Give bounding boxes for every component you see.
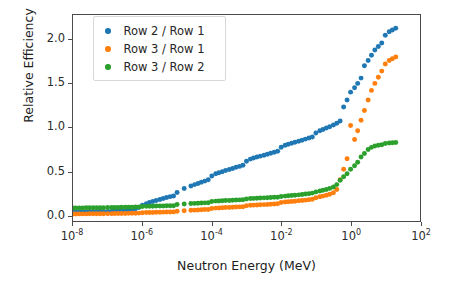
data-point — [175, 202, 180, 207]
data-point — [393, 140, 398, 145]
x-tick-label: 10-6 — [116, 228, 168, 243]
data-point — [275, 149, 280, 154]
x-tick-mark — [281, 222, 282, 226]
data-point — [348, 90, 353, 95]
x-tick-label: 102 — [395, 228, 447, 243]
data-point — [383, 33, 388, 38]
data-point — [348, 167, 353, 172]
data-point — [175, 190, 180, 195]
data-point — [341, 105, 346, 110]
y-tick-mark — [68, 127, 72, 128]
data-point — [352, 85, 357, 90]
data-point — [362, 63, 367, 68]
y-tick-label: 0.0 — [25, 208, 65, 222]
data-point — [369, 88, 374, 93]
y-tick-mark — [68, 83, 72, 84]
data-point — [393, 26, 398, 31]
data-point — [175, 209, 180, 214]
data-point — [362, 108, 367, 113]
x-tick-mark — [351, 222, 352, 226]
y-axis-label: Relative Efficiency — [21, 0, 36, 141]
legend-label: Row 2 / Row 1 — [124, 24, 205, 38]
data-point — [182, 186, 187, 191]
x-tick-mark — [72, 222, 73, 226]
y-tick-label: 0.5 — [25, 164, 65, 178]
x-tick-label: 100 — [325, 228, 377, 243]
data-point — [206, 177, 211, 182]
data-point — [355, 128, 360, 133]
y-tick-mark — [68, 216, 72, 217]
data-point — [379, 41, 384, 46]
data-point — [345, 156, 350, 161]
y-tick-mark — [68, 39, 72, 40]
data-point — [182, 208, 187, 213]
data-point — [362, 151, 367, 156]
data-point — [348, 123, 353, 128]
data-point — [310, 135, 315, 140]
x-axis-label: Neutron Energy (MeV) — [72, 258, 421, 273]
x-tick-mark — [142, 222, 143, 226]
series-3 — [73, 140, 398, 210]
x-tick-mark — [421, 222, 422, 226]
data-point — [345, 98, 350, 103]
data-point — [352, 137, 357, 142]
data-point — [376, 75, 381, 80]
data-point — [359, 118, 364, 123]
legend-item[interactable]: Row 2 / Row 1 — [101, 22, 218, 40]
data-point — [366, 98, 371, 103]
legend: Row 2 / Row 1 Row 3 / Row 1 Row 3 / Row … — [93, 16, 226, 81]
data-point — [345, 171, 350, 176]
data-point — [182, 201, 187, 206]
data-point — [171, 194, 176, 199]
data-point — [369, 53, 374, 58]
data-point — [366, 58, 371, 63]
x-tick-label: 10-4 — [186, 228, 238, 243]
data-point — [240, 163, 245, 168]
data-point — [338, 178, 343, 183]
data-point — [341, 167, 346, 172]
legend-item[interactable]: Row 3 / Row 1 — [101, 40, 218, 58]
data-point — [334, 182, 339, 187]
x-tick-label: 10-2 — [255, 228, 307, 243]
data-point — [379, 69, 384, 74]
data-point — [355, 160, 360, 165]
figure: 0.00.51.01.52.0 10-810-610-410-2100102 R… — [0, 0, 472, 284]
legend-marker-green — [105, 64, 111, 70]
data-point — [338, 119, 343, 124]
data-point — [359, 76, 364, 81]
legend-marker-blue — [105, 28, 111, 34]
data-point — [372, 48, 377, 53]
legend-item[interactable]: Row 3 / Row 2 — [101, 58, 218, 76]
y-tick-mark — [68, 172, 72, 173]
legend-label: Row 3 / Row 2 — [124, 60, 205, 74]
data-point — [393, 55, 398, 60]
x-tick-mark — [212, 222, 213, 226]
legend-label: Row 3 / Row 1 — [124, 42, 205, 56]
legend-marker-orange — [105, 46, 111, 52]
data-point — [372, 81, 377, 86]
x-tick-label: 10-8 — [46, 228, 98, 243]
data-point — [383, 62, 388, 67]
data-point — [355, 81, 360, 86]
